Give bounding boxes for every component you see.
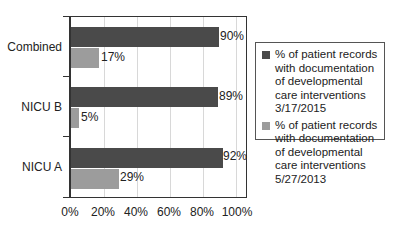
legend-label: % of patient records with documentation … [275, 119, 377, 185]
legend-label: % of patient records with documentation … [275, 48, 377, 114]
legend-swatch-dark [262, 51, 270, 59]
y-tick [63, 136, 69, 137]
value-label: 90% [220, 29, 244, 43]
value-label: 29% [120, 170, 144, 184]
category-label-nicu-b: NICU B [21, 100, 62, 114]
y-tick [63, 197, 69, 198]
x-tick-label: 60% [157, 205, 181, 219]
x-tick-label: 0% [61, 205, 78, 219]
gridline-100 [236, 17, 237, 197]
category-label-nicu-a: NICU A [22, 160, 62, 174]
bar-nicub-2015 [71, 87, 218, 107]
legend: % of patient records with documentation … [255, 42, 385, 140]
bar-combined-2015 [71, 27, 219, 47]
value-label: 89% [219, 89, 243, 103]
x-tick-label: 40% [124, 205, 148, 219]
y-tick [63, 16, 69, 17]
bar-nicua-2013 [71, 169, 119, 189]
value-label: 92% [223, 149, 247, 163]
bar-nicub-2013 [71, 108, 79, 128]
y-tick [63, 76, 69, 77]
bar-nicua-2015 [71, 148, 223, 168]
value-label: 17% [101, 50, 125, 64]
category-label-combined: Combined [7, 40, 62, 54]
plot-area [69, 16, 247, 198]
x-tick-label: 100% [222, 205, 253, 219]
x-tick-label: 20% [91, 205, 115, 219]
legend-swatch-light [262, 122, 270, 130]
legend-item-2015: % of patient records with documentation … [262, 48, 384, 116]
legend-item-2013: % of patient records with documentation … [262, 119, 384, 187]
x-tick-label: 80% [190, 205, 214, 219]
bar-combined-2013 [71, 48, 99, 68]
value-label: 5% [81, 110, 98, 124]
